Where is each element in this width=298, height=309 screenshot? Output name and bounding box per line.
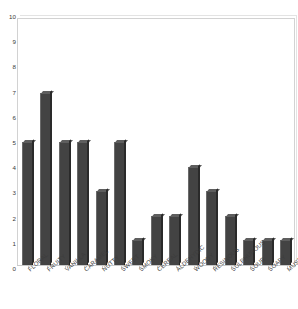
bar-side-face [235, 213, 237, 264]
bar-slot [38, 19, 56, 265]
bar-side-face [142, 237, 144, 264]
bar-slot [56, 19, 74, 265]
y-tick-label: 10 [0, 13, 16, 20]
bar-side-face [272, 237, 274, 264]
bar-slot [112, 19, 130, 265]
bar-slot [19, 19, 37, 265]
bar[interactable] [40, 93, 51, 265]
bars-container [18, 19, 295, 265]
plot-frame-shadow-top [20, 15, 297, 16]
bar-side-face [216, 188, 218, 264]
bar-slot [149, 19, 167, 265]
y-tick-label: 5 [0, 139, 16, 146]
bar[interactable] [22, 142, 33, 265]
bar-side-face [50, 90, 52, 264]
bar[interactable] [77, 142, 88, 265]
bar-side-face [124, 139, 126, 264]
bar-side-face [161, 213, 163, 264]
y-tick-label: 0 [0, 265, 16, 272]
y-tick-label: 4 [0, 164, 16, 171]
y-axis: 012345678910 [0, 16, 16, 268]
bar-slot [167, 19, 185, 265]
bar-side-face [179, 213, 181, 264]
bar-side-face [87, 139, 89, 264]
bar-top-face [170, 214, 183, 217]
bar-slot [259, 19, 277, 265]
bar-top-face [207, 189, 220, 192]
bar-top-face [133, 238, 146, 241]
bar-chart: 012345678910 FLORALFRUITYVANILLACARAMELN… [0, 0, 298, 309]
bar-side-face [69, 139, 71, 264]
bar-slot [278, 19, 296, 265]
y-tick-label: 7 [0, 88, 16, 95]
y-tick-label: 9 [0, 38, 16, 45]
bar-slot [93, 19, 111, 265]
y-tick-label: 6 [0, 113, 16, 120]
bar-slot [75, 19, 93, 265]
y-tick-label: 8 [0, 63, 16, 70]
bar-slot [185, 19, 203, 265]
y-tick-label: 3 [0, 189, 16, 196]
bar-slot [241, 19, 259, 265]
bar-slot [204, 19, 222, 265]
bar[interactable] [59, 142, 70, 265]
y-tick-label: 1 [0, 239, 16, 246]
bar-slot [130, 19, 148, 265]
y-tick-label: 2 [0, 214, 16, 221]
bar-side-face [32, 139, 34, 264]
bar-side-face [290, 237, 292, 264]
bar[interactable] [114, 142, 125, 265]
x-axis: FLORALFRUITYVANILLACARAMELNUTTYSWEETSMOK… [18, 266, 298, 309]
bar-slot [222, 19, 240, 265]
